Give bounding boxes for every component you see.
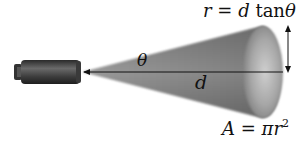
tan-function: tan — [250, 0, 285, 21]
equals-sign: = — [212, 0, 239, 21]
area-symbol: A — [222, 118, 235, 139]
theta-symbol: θ — [285, 0, 296, 21]
camera-icon — [14, 60, 81, 84]
equals-sign: = — [235, 118, 262, 139]
distance-label: d — [195, 73, 207, 92]
exponent: 2 — [282, 117, 289, 130]
radius-formula: r = d tanθ — [203, 2, 296, 20]
radius-symbol: r — [273, 118, 282, 139]
radius-symbol: r — [203, 0, 212, 21]
radius-arrow — [285, 25, 291, 73]
angle-label: θ — [137, 52, 147, 69]
distance-symbol: d — [238, 0, 250, 21]
pi-symbol: π — [262, 118, 274, 139]
area-formula: A = πr2 — [222, 118, 289, 138]
